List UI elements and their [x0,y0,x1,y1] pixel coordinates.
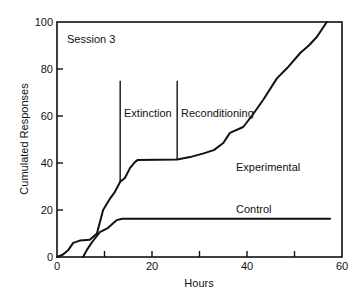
experimental-series-label: Experimental [236,161,300,173]
y-tick-label: 20 [41,204,53,216]
x-axis-label: Hours [184,277,214,289]
reconditioning-label: Reconditioning [181,107,254,119]
y-tick-label: 40 [41,157,53,169]
y-axis-label: Cumulated Responses [18,83,30,195]
session-label: Session 3 [67,33,115,45]
y-tick-label: 80 [41,63,53,75]
control-series-label: Control [236,203,271,215]
x-tick-label: 40 [241,260,253,272]
x-tick-label: 20 [146,260,158,272]
x-axis-ticks: 0204060 [54,251,348,272]
y-tick-label: 0 [47,251,53,263]
y-axis-ticks: 020406080100 [35,16,63,263]
y-tick-label: 60 [41,110,53,122]
y-tick-label: 100 [35,16,53,28]
x-tick-label: 60 [336,260,348,272]
x-tick-label: 0 [54,260,60,272]
data-series [57,22,330,257]
phase-markers [120,81,177,182]
series-line-control [83,219,330,257]
series-line-experimental [57,22,327,257]
extinction-label: Extinction [124,107,172,119]
cumulative-response-chart: 020406080100 0204060 Session 3 Hours Cum… [0,0,363,295]
